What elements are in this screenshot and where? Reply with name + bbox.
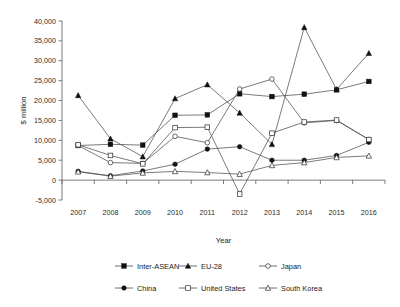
data-point bbox=[108, 153, 113, 158]
legend-item-japan[interactable]: Japan bbox=[259, 262, 301, 271]
data-point bbox=[205, 113, 210, 118]
legend-marker bbox=[266, 264, 271, 269]
data-point bbox=[367, 137, 372, 142]
y-axis-tick-label: 25,000 bbox=[34, 76, 56, 85]
data-point bbox=[237, 87, 242, 92]
data-point bbox=[205, 147, 210, 152]
x-axis-tick-label: 2016 bbox=[361, 208, 377, 217]
series-eu-28 bbox=[75, 25, 371, 159]
data-point bbox=[140, 154, 145, 159]
data-point bbox=[270, 94, 275, 99]
line-chart-figure: -5,00005,00010,00015,00020,00025,00030,0… bbox=[0, 0, 400, 307]
x-axis-tick-label: 2014 bbox=[296, 208, 312, 217]
y-axis-tick-label: 20,000 bbox=[34, 96, 56, 105]
legend-label: Japan bbox=[281, 262, 301, 271]
x-axis-tick-label: 2015 bbox=[329, 208, 345, 217]
data-point bbox=[367, 79, 372, 84]
y-axis-tick-label: 5,000 bbox=[38, 156, 56, 165]
x-axis-tick-label: 2009 bbox=[135, 208, 151, 217]
data-point bbox=[270, 77, 275, 82]
data-point bbox=[270, 131, 275, 136]
legend-label: EU-28 bbox=[201, 262, 222, 271]
data-point bbox=[302, 92, 307, 97]
y-axis-tick-label: 35,000 bbox=[34, 36, 56, 45]
data-point bbox=[76, 142, 81, 147]
data-point bbox=[108, 160, 113, 165]
legend-marker bbox=[122, 264, 127, 269]
data-point bbox=[108, 142, 113, 147]
y-axis-tick-label: 0 bbox=[52, 176, 56, 185]
data-point bbox=[75, 93, 80, 98]
data-point bbox=[205, 140, 210, 145]
legend-label: China bbox=[137, 284, 157, 293]
legend-item-united-states[interactable]: United States bbox=[179, 284, 246, 293]
series-inter-asean bbox=[76, 79, 371, 148]
x-axis-title: Year bbox=[216, 236, 232, 245]
data-point bbox=[173, 134, 178, 139]
legend-item-inter-asean[interactable]: Inter-ASEAN bbox=[115, 262, 179, 271]
data-point bbox=[173, 125, 178, 130]
x-axis: 2007200820092010201120122013201420152016 bbox=[62, 180, 385, 217]
data-point bbox=[173, 162, 178, 167]
legend-item-south-korea[interactable]: South Korea bbox=[259, 284, 323, 293]
y-axis-tick-label: 10,000 bbox=[34, 136, 56, 145]
y-axis-tick-label: -5,000 bbox=[36, 196, 56, 205]
legend-item-eu-28[interactable]: EU-28 bbox=[179, 262, 222, 271]
data-point bbox=[172, 96, 177, 101]
data-point bbox=[237, 144, 242, 149]
y-axis-tick-label: 30,000 bbox=[34, 56, 56, 65]
y-axis-tick-label: 15,000 bbox=[34, 116, 56, 125]
legend-item-china[interactable]: China bbox=[115, 284, 157, 293]
x-axis-tick-label: 2011 bbox=[200, 208, 215, 217]
x-axis-tick-label: 2007 bbox=[70, 208, 86, 217]
y-axis: -5,00005,00010,00015,00020,00025,00030,0… bbox=[34, 17, 62, 205]
x-axis-tick-label: 2010 bbox=[167, 208, 183, 217]
data-point bbox=[237, 192, 242, 197]
data-point bbox=[302, 120, 307, 125]
data-point bbox=[366, 50, 371, 55]
chart-legend: Inter-ASEANEU-28JapanChinaUnited StatesS… bbox=[115, 262, 323, 293]
data-point bbox=[140, 143, 145, 148]
legend-marker bbox=[186, 286, 191, 291]
data-point bbox=[140, 162, 145, 167]
legend-marker bbox=[122, 286, 127, 291]
data-point bbox=[270, 158, 275, 163]
x-axis-tick-label: 2008 bbox=[102, 208, 118, 217]
legend-label: South Korea bbox=[281, 284, 323, 293]
series-japan bbox=[76, 77, 371, 166]
data-point bbox=[302, 25, 307, 30]
y-axis-tick-label: 40,000 bbox=[34, 17, 56, 26]
legend-label: Inter-ASEAN bbox=[137, 262, 179, 271]
y-axis-title: $ million bbox=[19, 97, 28, 125]
data-point bbox=[205, 82, 210, 87]
chart-canvas: -5,00005,00010,00015,00020,00025,00030,0… bbox=[0, 0, 400, 307]
data-point bbox=[173, 113, 178, 118]
data-point bbox=[334, 118, 339, 123]
data-point bbox=[205, 125, 210, 130]
legend-label: United States bbox=[201, 284, 246, 293]
x-axis-tick-label: 2013 bbox=[264, 208, 280, 217]
x-axis-tick-label: 2012 bbox=[232, 208, 248, 217]
